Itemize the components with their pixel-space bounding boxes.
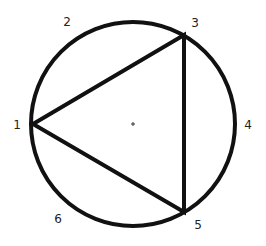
point-label-1: 1 [13,118,21,132]
point-label-6: 6 [54,212,62,226]
point-label-5: 5 [194,218,202,232]
point-label-3: 3 [191,16,199,30]
diagram-canvas: 1 2 3 4 5 6 [0,0,266,246]
point-label-4: 4 [244,118,252,132]
center-mark-icon [131,122,135,126]
circle-triangle-diagram: 1 2 3 4 5 6 [0,0,266,246]
point-label-2: 2 [63,15,71,29]
inscribed-triangle [33,35,184,212]
